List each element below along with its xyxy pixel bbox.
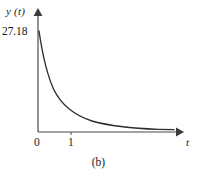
y-intercept-value-label: 27.18 — [2, 26, 27, 38]
figure-caption: (b) — [0, 157, 197, 169]
x-tick-label-1: 1 — [68, 137, 74, 149]
x-axis-arrowhead — [176, 128, 184, 137]
plot-canvas — [0, 0, 197, 174]
y-axis-label: y (t) — [6, 6, 25, 17]
y-axis-arrowhead — [34, 8, 43, 16]
decay-curve — [39, 31, 174, 130]
x-tick-label-0: 0 — [34, 137, 40, 149]
x-axis-label: t — [186, 137, 189, 148]
figure-panel: y (t) 27.18 0 1 t (b) — [0, 0, 197, 174]
